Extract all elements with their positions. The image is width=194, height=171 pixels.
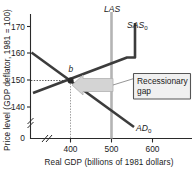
sas0-curve-label: SAS0 bbox=[127, 20, 148, 31]
x-tick-label-400: 400 bbox=[64, 144, 78, 154]
recessionary-gap-text-line2: gap bbox=[137, 86, 151, 96]
y-tick-label-150: 150 bbox=[11, 75, 25, 85]
callout-leader-line bbox=[113, 79, 134, 86]
y-axis-title: Price level (GDP deflator, 1981 = 100) bbox=[3, 9, 12, 151]
equilibrium-point-b-label: b bbox=[69, 64, 74, 74]
chart-canvas: 170 160 150 140 0 400 500 600 Real GDP (… bbox=[0, 0, 194, 171]
y-tick-label-140: 140 bbox=[11, 102, 25, 112]
x-axis-ticks bbox=[71, 139, 153, 143]
recessionary-gap-chart: 170 160 150 140 0 400 500 600 Real GDP (… bbox=[0, 0, 194, 171]
recessionary-gap-text-line1: Recessionary bbox=[137, 76, 189, 86]
y-tick-label-160: 160 bbox=[11, 48, 25, 58]
x-tick-label-600: 600 bbox=[146, 144, 160, 154]
x-axis-title: Real GDP (billions of 1981 dollars) bbox=[45, 158, 174, 167]
x-tick-label-500: 500 bbox=[105, 144, 119, 154]
ad0-curve-label: AD0 bbox=[135, 123, 152, 134]
y-tick-label-170: 170 bbox=[11, 22, 25, 32]
las-curve-label: LAS bbox=[104, 4, 121, 14]
y-tick-label-0: 0 bbox=[20, 133, 25, 143]
recessionary-gap-arrow bbox=[72, 75, 113, 95]
equilibrium-point-b-marker bbox=[67, 77, 73, 83]
